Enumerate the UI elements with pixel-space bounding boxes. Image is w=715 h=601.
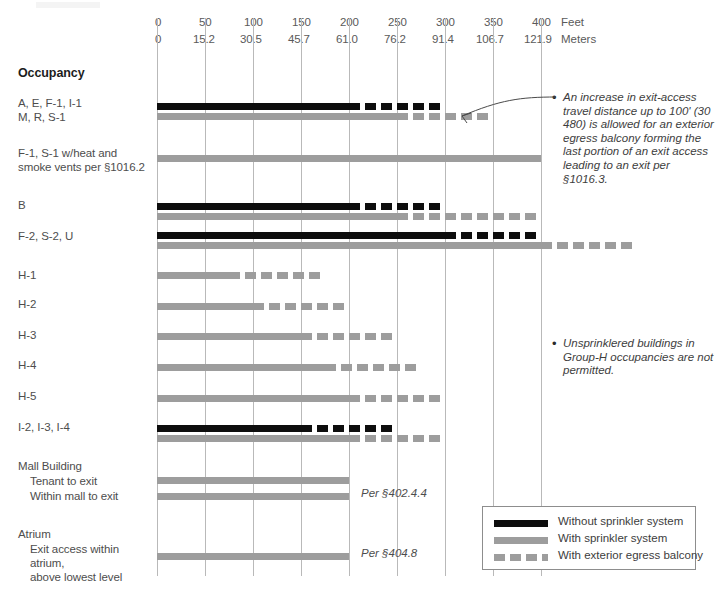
bar-h1-sprinklered-balcony — [229, 272, 325, 279]
row-label-f1-s1-vents: F-1, S-1 w/heat and smoke vents per §101… — [18, 146, 145, 174]
bar-h4-sprinklered-balcony — [325, 364, 421, 371]
bar-i2-i3-i4-sprinklered — [157, 435, 349, 442]
top-edge-artifact — [36, 2, 100, 8]
gridline-350 — [493, 18, 494, 576]
bar-f2-s2-u-unsprinklered — [157, 232, 445, 239]
row-label-tenant-to-exit: Tenant to exit — [18, 474, 97, 488]
inline-note-mall: Per §402.4.4 — [361, 487, 427, 499]
row-label-h1: H-1 — [18, 268, 36, 282]
legend-label-without-sprinkler: Without sprinkler system — [558, 515, 683, 527]
bullet-icon-1: • — [552, 91, 557, 105]
legend-item-without-sprinkler: Without sprinkler system — [494, 516, 690, 530]
legend: Without sprinkler system With sprinkler … — [482, 506, 696, 570]
bar-h5-sprinklered-balcony — [349, 395, 445, 402]
bar-a-e-f1-i1-unsprinklered — [157, 103, 349, 110]
bar-f2-s2-u-unsprinklered-balcony — [445, 232, 537, 239]
row-label-mall-building: Mall Building — [18, 459, 82, 473]
row-label-h5: H-5 — [18, 389, 36, 403]
bar-h5-sprinklered — [157, 395, 349, 402]
bar-a-e-f1-i1-unsprinklered-balcony — [349, 103, 441, 110]
row-label-b: B — [18, 198, 26, 212]
bar-b-unsprinklered — [157, 203, 349, 210]
bar-mall-tenant-to-exit — [157, 477, 349, 484]
row-label-h3: H-3 — [18, 328, 36, 342]
row-label-atrium: Atrium — [18, 527, 51, 541]
bar-atrium-exit-access — [157, 553, 349, 560]
bar-f2-s2-u-sprinklered-balcony — [541, 242, 633, 249]
bar-mall-within-mall-to-exit — [157, 493, 349, 500]
legend-swatch-with-sprinkler — [494, 537, 548, 544]
gridline-400 — [541, 18, 542, 576]
legend-label-egress-balcony: With exterior egress balcony — [558, 549, 703, 561]
bar-a-e-f1-i1-sprinklered-balcony — [397, 113, 489, 120]
row-label-i2-i3-i4: I-2, I-3, I-4 — [18, 420, 70, 434]
row-label-h4: H-4 — [18, 358, 36, 372]
bar-b-sprinklered-balcony — [397, 213, 541, 220]
row-label-f2-s2-u: F-2, S-2, U — [18, 229, 73, 243]
bar-i2-i3-i4-unsprinklered — [157, 425, 301, 432]
legend-item-with-sprinkler: With sprinkler system — [494, 533, 690, 547]
row-label-h2: H-2 — [18, 297, 36, 311]
bullet-icon-2: • — [552, 337, 557, 351]
bar-f2-s2-u-sprinklered — [157, 242, 541, 249]
bar-f1-s1-vents-sprinklered — [157, 155, 541, 162]
row-label-a-e-f1-i1: A, E, F-1, I-1 M, R, S-1 — [18, 96, 82, 124]
bar-i2-i3-i4-sprinklered-balcony — [349, 435, 441, 442]
bar-h3-sprinklered — [157, 333, 301, 340]
legend-swatch-egress-balcony — [494, 554, 548, 561]
bar-h2-sprinklered-balcony — [253, 303, 349, 310]
legend-swatch-without-sprinkler — [494, 520, 548, 527]
annotation-egress-balcony: • An increase in exit-access travel dist… — [563, 91, 715, 186]
gridline-300 — [445, 18, 446, 576]
axis-unit-meters: Meters — [561, 33, 596, 45]
row-label-atrium-exit-access: Exit access within atrium, above lowest … — [18, 542, 154, 584]
annotation-group-h-text: Unsprinklered buildings in Group-H occup… — [563, 337, 713, 376]
bar-b-sprinklered — [157, 213, 397, 220]
legend-label-with-sprinkler: With sprinkler system — [558, 532, 667, 544]
row-label-within-mall-to-exit: Within mall to exit — [18, 489, 118, 503]
gridline-200 — [349, 18, 350, 576]
column-header-occupancy: Occupancy — [18, 66, 85, 80]
annotation-group-h: • Unsprinklered buildings in Group-H occ… — [563, 337, 715, 378]
bar-h1-sprinklered — [157, 272, 229, 279]
bar-b-unsprinklered-balcony — [349, 203, 441, 210]
bar-h4-sprinklered — [157, 364, 325, 371]
axis-unit-feet: Feet — [561, 16, 584, 28]
bar-a-e-f1-i1-sprinklered — [157, 113, 397, 120]
bar-h3-sprinklered-balcony — [301, 333, 397, 340]
inline-note-atrium: Per §404.8 — [361, 547, 417, 559]
bar-h2-sprinklered — [157, 303, 253, 310]
legend-item-egress-balcony: With exterior egress balcony — [494, 550, 690, 564]
bar-i2-i3-i4-unsprinklered-balcony — [301, 425, 393, 432]
annotation-egress-balcony-text: An increase in exit-access travel distan… — [563, 91, 714, 185]
